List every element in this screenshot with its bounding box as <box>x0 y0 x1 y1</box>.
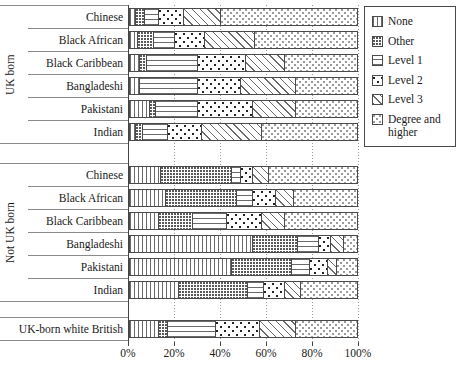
row-label: Indian <box>28 123 123 141</box>
segment-level-3 <box>328 258 337 276</box>
segment-other <box>136 8 145 26</box>
row-label: Black Caribbean <box>28 212 123 230</box>
segment-level-3 <box>331 235 345 253</box>
row-label: Indian <box>28 281 123 299</box>
segment-level-3 <box>262 212 285 230</box>
x-tick <box>312 342 313 346</box>
group-label-uk-born: UK born <box>4 8 18 141</box>
segment-level-2 <box>253 189 276 207</box>
category-label-column: ChineseBlack AfricanBlack CaribbeanBangl… <box>0 0 128 373</box>
segment-level-2 <box>227 212 261 230</box>
segment-level-1 <box>237 189 253 207</box>
label-separator <box>28 51 128 52</box>
segment-level-1 <box>232 166 241 184</box>
segment-level-2 <box>264 281 285 299</box>
segment-level-2 <box>175 31 205 49</box>
legend-item-other: Other <box>372 35 450 49</box>
legend-item-none: None <box>372 15 450 29</box>
segment-none <box>129 166 161 184</box>
x-tick <box>220 342 221 346</box>
segment-degree-and-higher <box>255 31 358 49</box>
segment-level-3 <box>253 100 297 118</box>
label-separator <box>0 340 128 341</box>
segment-level-3 <box>184 8 221 26</box>
segment-level-1 <box>143 123 168 141</box>
segment-none <box>129 31 138 49</box>
segment-none <box>129 123 136 141</box>
segment-level-3 <box>202 123 262 141</box>
bar-row-chinese <box>129 166 358 184</box>
segment-other <box>166 189 237 207</box>
row-label: Black Caribbean <box>28 54 123 72</box>
diagonal-lines-swatch-icon <box>372 94 383 105</box>
polka-dots-swatch-icon <box>372 75 383 86</box>
x-tick <box>128 342 129 346</box>
x-tick-label: 0% <box>106 347 150 359</box>
bar-row-pakistani <box>129 100 358 118</box>
bar-row-indian <box>129 123 358 141</box>
segment-other <box>150 100 157 118</box>
segment-level-2 <box>241 166 252 184</box>
segment-none <box>129 320 159 338</box>
segment-level-2 <box>198 100 253 118</box>
bar-row-pakistani <box>129 258 358 276</box>
segment-level-2 <box>198 54 246 72</box>
segment-other <box>138 31 154 49</box>
segment-level-2 <box>310 258 328 276</box>
segment-level-1 <box>248 281 264 299</box>
row-label: Black African <box>28 31 123 49</box>
bar-row-black-caribbean <box>129 212 358 230</box>
segment-none <box>129 235 253 253</box>
group-label-not-uk-born: Not UK born <box>4 166 18 299</box>
bar-row-bangladeshi <box>129 235 358 253</box>
legend: NoneOtherLevel 1Level 2Level 3Degree and… <box>364 6 456 147</box>
segment-level-2 <box>216 320 260 338</box>
segment-level-1 <box>168 320 216 338</box>
x-tick-label: 40% <box>198 347 242 359</box>
segment-other <box>179 281 248 299</box>
segment-degree-and-higher <box>262 123 358 141</box>
segment-level-3 <box>285 281 301 299</box>
label-separator <box>0 301 128 302</box>
segment-other <box>140 54 147 72</box>
segment-other <box>161 166 232 184</box>
x-tick <box>358 342 359 346</box>
fine-dots-swatch-icon <box>372 36 383 47</box>
label-separator <box>28 232 128 233</box>
segment-none <box>129 77 140 95</box>
segment-level-1 <box>193 212 227 230</box>
segment-none <box>129 100 150 118</box>
legend-label: None <box>388 15 413 29</box>
segment-level-1 <box>140 77 197 95</box>
segment-degree-and-higher <box>337 258 358 276</box>
segment-level-3 <box>260 320 297 338</box>
segment-degree-and-higher <box>301 281 358 299</box>
segment-degree-and-higher <box>296 320 358 338</box>
segment-degree-and-higher <box>296 100 358 118</box>
label-separator <box>28 120 128 121</box>
segment-level-3 <box>253 166 269 184</box>
segment-none <box>129 258 232 276</box>
row-label: Pakistani <box>28 258 123 276</box>
segment-level-2 <box>168 123 202 141</box>
legend-label: Degree and higher <box>388 113 450 140</box>
segment-degree-and-higher <box>221 8 358 26</box>
legend-item-level-2: Level 2 <box>372 74 450 88</box>
segment-none <box>129 8 136 26</box>
bar-row-black-african <box>129 31 358 49</box>
row-label: Bangladeshi <box>28 77 123 95</box>
label-separator <box>28 255 128 256</box>
segment-degree-and-higher <box>285 212 358 230</box>
segment-none <box>129 189 166 207</box>
segment-level-3 <box>276 189 294 207</box>
segment-other <box>136 123 143 141</box>
x-tick <box>266 342 267 346</box>
segment-level-3 <box>246 54 285 72</box>
label-separator <box>28 186 128 187</box>
segment-level-3 <box>205 31 255 49</box>
horizontal-lines-swatch-icon <box>372 55 383 66</box>
legend-label: Other <box>388 35 414 49</box>
label-separator <box>28 28 128 29</box>
row-label: Pakistani <box>28 100 123 118</box>
row-label: Chinese <box>28 166 123 184</box>
